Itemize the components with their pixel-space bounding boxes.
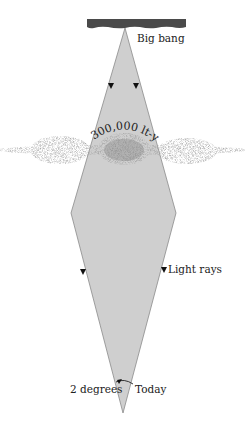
light-rays-label: Light rays <box>168 263 222 275</box>
today-label: Today <box>135 383 166 395</box>
big-bang-label: Big bang <box>137 32 185 44</box>
big-bang-bar <box>87 19 186 28</box>
arrow-icon <box>80 269 86 275</box>
diagram-canvas: 300,000 lt-yr Big bang Light rays 2 degr… <box>0 0 245 431</box>
arrow-icon <box>161 267 167 273</box>
light-cone <box>71 28 176 413</box>
central-galaxy-core <box>104 139 144 161</box>
angle-label: 2 degrees <box>70 383 123 395</box>
